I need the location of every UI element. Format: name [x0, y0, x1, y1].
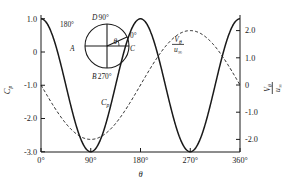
- y-right-tick-label-2: 0: [245, 81, 249, 90]
- svg-text:u∞: u∞: [273, 84, 283, 92]
- y-right-axis-label: Vθ u∞: [263, 82, 283, 94]
- curve-label-cp: Cp: [101, 98, 110, 108]
- y-right-tick-label-3: -1.0: [245, 108, 258, 117]
- x-ticks: [41, 148, 240, 152]
- x-tick-label-3: 270°: [182, 156, 198, 165]
- cylinder-point-D-label: D90°: [91, 13, 109, 22]
- x-axis-label: θ: [138, 169, 142, 179]
- cylinder-point-B-label: B270°: [92, 72, 112, 81]
- y-right-tick-label-4: -2.0: [245, 135, 258, 144]
- chart-svg: 1.0 0 -1.0 -2.0 -3.0 Cp 2.0 1.0 0 -1.0 -…: [0, 0, 289, 185]
- svg-text:Vθ: Vθ: [263, 84, 273, 92]
- x-tick-label-2: 180°: [133, 156, 149, 165]
- y-right-ticks: [236, 31, 240, 140]
- y-left-tick-labels: 1.0 0 -1.0 -2.0 -3.0: [24, 15, 37, 157]
- y-right-axis-label-den-sub: ∞: [277, 84, 283, 88]
- cylinder-point-D-angle: 90°: [99, 13, 109, 22]
- svg-text:Cp: Cp: [2, 86, 13, 95]
- x-tick-labels: 0° 90° 180° 270° 360°: [37, 156, 247, 165]
- cylinder-point-C-label: C: [130, 44, 135, 53]
- y-right-tick-label-0: 2.0: [245, 26, 255, 35]
- cylinder-angle-0-label: 0°: [130, 31, 137, 40]
- cylinder-point-B-angle: 270°: [98, 72, 112, 81]
- y-left-tick-label-4: -3.0: [24, 148, 37, 157]
- cylinder-point-B-id: B: [92, 72, 97, 81]
- cylinder-point-A-label: A: [69, 44, 75, 53]
- x-tick-label-0: 0°: [37, 156, 44, 165]
- x-tick-label-1: 90°: [85, 156, 96, 165]
- figure-container: 1.0 0 -1.0 -2.0 -3.0 Cp 2.0 1.0 0 -1.0 -…: [0, 0, 289, 185]
- y-left-tick-label-0: 1.0: [27, 15, 37, 24]
- cylinder-angle-180-label: 180°: [60, 20, 74, 29]
- curve-label-cp-sub: p: [106, 102, 110, 108]
- cylinder-point-D-id: D: [91, 13, 98, 22]
- y-left-tick-label-1: 0: [33, 48, 37, 57]
- axis-lines: [41, 15, 240, 152]
- y-right-tick-label-1: 1.0: [245, 54, 255, 63]
- y-right-tick-labels: 2.0 1.0 0 -1.0 -2.0: [245, 26, 258, 144]
- curve-label-vtheta: Vθ u∞: [172, 35, 184, 55]
- curve-label-vtheta-den-sub: ∞: [178, 49, 182, 55]
- x-tick-label-4: 360°: [232, 156, 248, 165]
- svg-text:u∞: u∞: [174, 45, 182, 55]
- cylinder-theta-symbol: θ: [114, 37, 118, 46]
- svg-text:Vθ: Vθ: [174, 35, 182, 45]
- y-left-tick-label-2: -1.0: [24, 81, 37, 90]
- y-left-axis-label-sub: p: [7, 86, 13, 90]
- y-left-tick-label-3: -2.0: [24, 114, 37, 123]
- y-left-axis-label: Cp: [2, 86, 13, 95]
- cylinder-theta-arc: [118, 41, 119, 46]
